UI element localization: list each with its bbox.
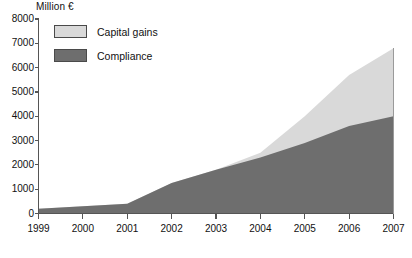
y-tick-label: 7000 — [0, 38, 34, 48]
x-tick-label: 2000 — [72, 224, 94, 234]
x-tick-label: 2005 — [294, 224, 316, 234]
y-tick-label: 3000 — [0, 136, 34, 146]
y-tick-label: 2000 — [0, 160, 34, 170]
legend-item-compliance[interactable]: Compliance — [54, 48, 158, 63]
legend-swatch-compliance — [54, 49, 87, 62]
area-compliance — [39, 116, 394, 213]
x-tick-label: 2007 — [382, 224, 404, 234]
legend-swatch-capital-gains — [54, 25, 87, 38]
y-tick-label: 6000 — [0, 63, 34, 73]
chart-legend: Capital gains Compliance — [54, 24, 158, 72]
y-tick-label: 4000 — [0, 111, 34, 121]
legend-label-capital-gains: Capital gains — [97, 26, 158, 38]
x-tick-label: 1999 — [27, 224, 49, 234]
y-tick-label: 1000 — [0, 184, 34, 194]
y-tick-label: 8000 — [0, 14, 34, 24]
x-tick-label: 2006 — [338, 224, 360, 234]
legend-item-capital-gains[interactable]: Capital gains — [54, 24, 158, 39]
x-tick-label: 2001 — [116, 224, 138, 234]
area-series-group — [39, 48, 394, 213]
x-tick-label: 2004 — [249, 224, 271, 234]
chart-container: Million € 010002000300040005000600070008… — [0, 0, 412, 258]
y-tick-label: 0 — [0, 209, 34, 219]
x-tick-label: 2003 — [205, 224, 227, 234]
y-tick-label: 5000 — [0, 87, 34, 97]
x-tick-label: 2002 — [161, 224, 183, 234]
legend-label-compliance: Compliance — [97, 50, 152, 62]
x-axis-ticks — [39, 214, 394, 219]
